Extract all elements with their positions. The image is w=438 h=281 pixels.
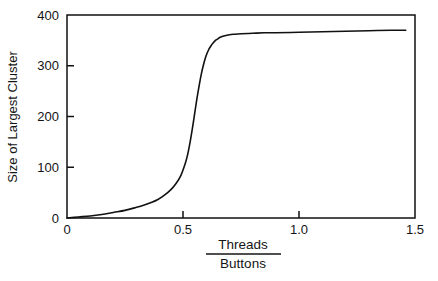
y-tick-label-400: 400 (37, 8, 59, 23)
y-tick-label-100: 100 (37, 160, 59, 175)
x-tick-label-0: 0 (63, 222, 70, 237)
x-axis-numerator-text: Threads (218, 237, 268, 252)
x-tick-label-1.0: 1.0 (290, 222, 308, 237)
x-axis-denominator-text: Buttons (220, 256, 266, 271)
y-tick-label-200: 200 (37, 109, 59, 124)
y-axis-title: Size of Largest Cluster (5, 51, 20, 183)
y-axis-title-text: Size of Largest Cluster (5, 51, 20, 183)
x-tick-label-1.5: 1.5 (406, 222, 424, 237)
x-tick-label-0.5: 0.5 (174, 222, 192, 237)
y-tick-label-300: 300 (37, 58, 59, 73)
figure-page: 0100200300400 00.51.01.5 Size of Largest… (0, 0, 438, 281)
y-tick-label-0: 0 (52, 211, 59, 226)
percolation-chart: 0100200300400 00.51.01.5 Size of Largest… (0, 0, 438, 281)
